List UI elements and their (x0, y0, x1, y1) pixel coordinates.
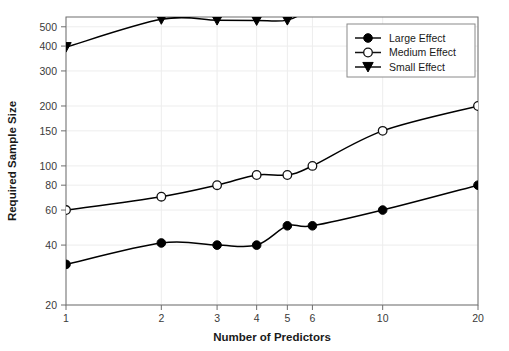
y-tick-label: 20 (45, 299, 57, 311)
x-tick-label: 5 (284, 312, 290, 324)
legend-item-label: Large Effect (389, 32, 446, 44)
y-tick-label: 300 (39, 65, 57, 77)
data-point-marker-large-effect (378, 206, 387, 215)
x-tick-label: 10 (377, 312, 389, 324)
y-tick-label: 100 (39, 160, 57, 172)
x-tick-label: 2 (158, 312, 164, 324)
data-point-marker-large-effect (283, 222, 292, 231)
x-tick-label: 3 (214, 312, 220, 324)
y-tick-label: 60 (45, 204, 57, 216)
x-tick-label: 1 (63, 312, 69, 324)
legend-item[interactable]: Small Effect (355, 61, 445, 73)
data-point-marker-large-effect (213, 241, 222, 250)
data-point-marker-legend (364, 34, 373, 43)
data-point-marker-medium-effect (252, 171, 261, 180)
data-point-marker-medium-effect (283, 171, 292, 180)
y-tick-label: 400 (39, 40, 57, 52)
data-point-marker-large-effect (157, 239, 166, 248)
data-point-marker-medium-effect (308, 162, 317, 171)
legend-item-label: Small Effect (389, 61, 445, 73)
legend: Large EffectMedium EffectSmall Effect (347, 24, 475, 77)
data-point-marker-large-effect (252, 241, 261, 250)
x-tick-label: 4 (254, 312, 260, 324)
y-tick-label: 500 (39, 21, 57, 33)
y-tick-label: 40 (45, 239, 57, 251)
data-point-marker-medium-effect (157, 192, 166, 201)
data-point-marker-medium-effect (378, 127, 387, 136)
legend-item[interactable]: Large Effect (355, 32, 446, 44)
legend-item-label: Medium Effect (389, 46, 456, 58)
data-point-marker-legend (364, 48, 373, 57)
legend-item[interactable]: Medium Effect (355, 46, 456, 58)
chart-container: 20406080100150200300400500 1234561020 Nu… (0, 0, 509, 351)
y-axis-title: Required Sample Size (6, 101, 18, 221)
x-tick-label: 6 (309, 312, 315, 324)
line-chart: 20406080100150200300400500 1234561020 Nu… (0, 0, 509, 351)
y-tick-label: 150 (39, 125, 57, 137)
data-point-marker-medium-effect (213, 181, 222, 190)
x-axis-title: Number of Predictors (213, 331, 331, 343)
x-tick-label: 20 (472, 312, 484, 324)
y-tick-label: 200 (39, 100, 57, 112)
y-tick-label: 80 (45, 179, 57, 191)
data-point-marker-large-effect (308, 222, 317, 231)
